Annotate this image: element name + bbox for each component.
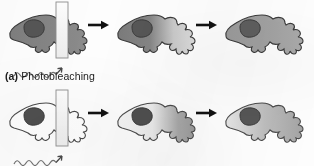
cell-shape-icon [10,15,87,54]
laser-wave-arrow-icon [14,160,56,165]
cell-shape-icon [118,103,195,142]
arrow-a1 [88,21,109,30]
panel-a1 [10,2,87,78]
panel-b2 [118,103,195,142]
laser-beam-rectangle-icon [56,2,68,58]
nucleus-icon [132,108,152,125]
photoactivation-row [10,90,303,166]
photobleaching-figure: (a) Photobleaching [0,0,314,166]
cell-shape-icon [226,103,303,142]
panel-b3 [226,103,303,142]
figure-caption: (a) Photobleaching [5,70,95,82]
photobleaching-row [10,2,303,78]
panel-a2 [118,15,195,54]
caption-text: Photobleaching [21,70,95,82]
panel-a3 [226,15,303,54]
laser-beam-rectangle-icon [56,90,68,146]
nucleus-icon [132,20,152,37]
arrow-b2 [196,109,217,118]
caption-tag: (a) [5,70,18,82]
nucleus-icon [24,20,44,37]
nucleus-icon [24,108,44,125]
cell-shape-icon [10,103,87,142]
cell-shape-icon [118,15,195,54]
figure-canvas [0,0,314,166]
cell-shape-icon [226,15,303,54]
nucleus-icon [240,108,260,125]
nucleus-icon [240,20,260,37]
arrow-b1 [88,109,109,118]
arrow-a2 [196,21,217,30]
panel-b1 [10,90,87,166]
laser-wave-arrowhead-icon [56,156,62,163]
